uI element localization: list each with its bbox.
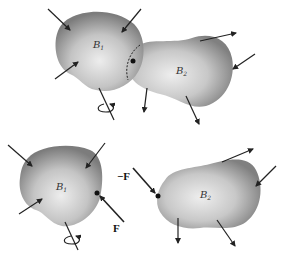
contact-point-b2 xyxy=(156,194,161,199)
force-neg-f-arrow xyxy=(133,168,155,193)
contact-point xyxy=(131,59,136,64)
diagram-canvas: B1 B2 B1 B2 F −F xyxy=(0,0,285,258)
arrow-icon xyxy=(8,145,32,166)
contact-point-b1 xyxy=(95,191,100,196)
top-panel: B1 B2 xyxy=(48,9,255,124)
moment-icon xyxy=(98,104,113,112)
body-b1-top xyxy=(56,12,144,91)
force-label-f: F xyxy=(113,222,120,234)
arrow-icon xyxy=(48,9,70,30)
moment-axis xyxy=(99,88,114,120)
force-f-arrow xyxy=(100,196,124,222)
arrow-icon xyxy=(256,166,276,186)
arrow-icon xyxy=(144,88,147,112)
arrow-icon xyxy=(233,54,255,69)
force-label-neg-f: −F xyxy=(117,170,130,182)
bottom-panel: B1 B2 F −F xyxy=(8,143,276,250)
